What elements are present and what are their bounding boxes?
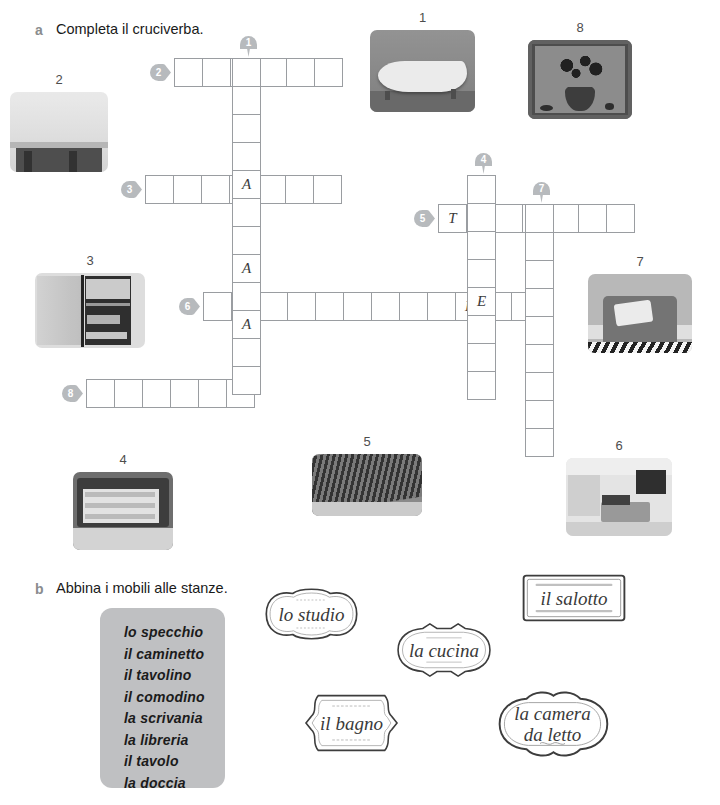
crossword-cell[interactable] [232, 366, 261, 395]
crossword-cell[interactable] [467, 231, 496, 260]
crossword-cell[interactable] [232, 114, 261, 143]
crossword-cell[interactable] [232, 142, 261, 171]
furniture-word: la scrivania [124, 708, 225, 730]
furniture-word-list: lo specchioil caminettoil tavolinoil com… [100, 608, 225, 788]
furniture-word: lo specchio [124, 622, 225, 644]
photo-item: 7 [588, 254, 692, 353]
crossword-cell[interactable] [315, 292, 344, 321]
crossword-cell[interactable] [494, 204, 523, 233]
room-label-la-camera-da-letto[interactable]: la camera da letto [490, 688, 615, 760]
crossword-cell[interactable] [525, 344, 554, 373]
crossword-cell[interactable] [467, 343, 496, 372]
room-label-il-bagno[interactable]: il bagno [299, 690, 404, 756]
photo-item: 3 [35, 253, 145, 348]
crossword-cell[interactable] [550, 204, 579, 233]
crossword-cell[interactable] [198, 379, 227, 408]
photo-chest-drawer-image [73, 472, 173, 550]
room-label-text: il salotto [540, 588, 607, 609]
room-label-text: la cucina [409, 640, 479, 661]
crossword-cell[interactable] [232, 226, 261, 255]
crossword-cell[interactable] [202, 58, 231, 87]
crossword-cell[interactable] [285, 175, 314, 204]
photo-number: 1 [370, 10, 475, 25]
furniture-word: il comodino [124, 687, 225, 709]
crossword-cell[interactable]: A [232, 170, 261, 199]
photo-carpet-rug-image [312, 454, 422, 516]
crossword-cell[interactable] [173, 175, 202, 204]
crossword-cell[interactable] [525, 288, 554, 317]
crossword-cell[interactable] [203, 292, 232, 321]
crossword-cell[interactable] [114, 379, 143, 408]
photo-bookcase-image [35, 273, 145, 348]
crossword-cell[interactable] [259, 292, 288, 321]
crossword-cell[interactable] [467, 175, 496, 204]
photo-item: 5 [312, 434, 422, 516]
crossword-cell[interactable]: A [232, 254, 261, 283]
crossword-cell[interactable] [525, 400, 554, 429]
crossword-cell[interactable] [232, 86, 261, 115]
crossword-cell[interactable] [467, 203, 496, 232]
photo-number: 8 [528, 20, 632, 35]
room-label-lo-studio[interactable]: lo studio [255, 586, 368, 642]
crossword-cell[interactable]: A [232, 310, 261, 339]
exercise-b-title: Abbina i mobili alle stanze. [56, 580, 228, 596]
crossword-cell[interactable] [232, 282, 261, 311]
crossword-cell[interactable] [145, 175, 174, 204]
photo-item: 4 [73, 452, 173, 550]
photo-item: 8 [528, 20, 632, 119]
photo-number: 7 [588, 254, 692, 269]
crossword-cell[interactable] [606, 204, 635, 233]
crossword-cell[interactable] [399, 292, 428, 321]
crossword-cell[interactable] [257, 175, 286, 204]
photo-bedroom-image [566, 458, 672, 536]
crossword-cell[interactable] [286, 58, 315, 87]
room-label-text: lo studio [279, 604, 345, 625]
crossword-cell[interactable] [314, 58, 343, 87]
crossword-cell[interactable] [525, 260, 554, 289]
crossword-cell[interactable] [525, 316, 554, 345]
crossword-cell[interactable]: T [438, 204, 467, 233]
crossword-cell[interactable] [371, 292, 400, 321]
crossword-clue-pin: 7 [533, 182, 550, 203]
crossword-cell[interactable] [201, 175, 230, 204]
photo-number: 2 [10, 72, 108, 87]
crossword-cell[interactable] [232, 198, 261, 227]
crossword-cell[interactable]: E [467, 287, 496, 316]
crossword-cell[interactable] [232, 58, 261, 87]
crossword-cell[interactable] [467, 315, 496, 344]
crossword-cell[interactable] [232, 338, 261, 367]
crossword-cell[interactable] [467, 259, 496, 288]
photo-number: 4 [73, 452, 173, 467]
crossword-cell[interactable] [313, 175, 342, 204]
crossword-cell[interactable] [142, 379, 171, 408]
crossword-cell[interactable] [170, 379, 199, 408]
furniture-word: il tavolino [124, 665, 225, 687]
photo-number: 5 [312, 434, 422, 449]
crossword-cell[interactable] [578, 204, 607, 233]
crossword-cell[interactable] [525, 372, 554, 401]
crossword-cell[interactable] [174, 58, 203, 87]
crossword-cell[interactable] [525, 232, 554, 261]
crossword-cell[interactable] [427, 292, 456, 321]
crossword-cell[interactable] [467, 371, 496, 400]
photo-bathtub-image [370, 30, 475, 112]
crossword-clue-pin: 8 [62, 385, 83, 402]
photo-item: 6 [566, 438, 672, 536]
furniture-word: il tavolo [124, 751, 225, 773]
photo-flower-vase-picture-image [528, 40, 632, 119]
crossword-clue-pin: 2 [150, 64, 171, 81]
crossword-clue-pin: 3 [121, 181, 142, 198]
crossword-cell[interactable] [525, 428, 554, 457]
crossword-cell[interactable] [258, 58, 287, 87]
crossword-cell[interactable] [343, 292, 372, 321]
crossword-cell[interactable] [86, 379, 115, 408]
crossword-cell[interactable] [287, 292, 316, 321]
crossword-cell[interactable] [525, 204, 554, 233]
room-label-la-cucina[interactable]: la cucina [391, 622, 497, 678]
photo-item: 1 [370, 10, 475, 112]
photo-number: 6 [566, 438, 672, 453]
room-label-il-salotto[interactable]: il salotto [518, 570, 630, 626]
photo-number: 3 [35, 253, 145, 268]
furniture-word: la libreria [124, 730, 225, 752]
crossword-clue-pin: 1 [240, 36, 257, 57]
